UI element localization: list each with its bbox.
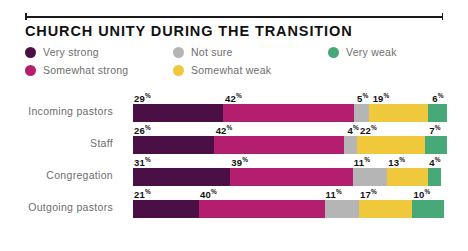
category-label: Staff (0, 137, 113, 149)
chart-row: Congregation31%39%11%13%4% (0, 156, 468, 188)
legend-item[interactable]: Somewhat weak (173, 64, 271, 76)
bar-segment[interactable] (412, 200, 443, 218)
legend-swatch-icon (173, 47, 184, 58)
bar-segment[interactable] (199, 200, 325, 218)
legend-swatch-icon (25, 65, 36, 76)
stacked-bar (133, 136, 447, 154)
percent-sign: % (438, 92, 444, 99)
category-label: Congregation (0, 169, 113, 181)
segment-value-label: 6% (432, 92, 443, 104)
segment-value-label: 42% (216, 124, 233, 136)
value-label-layer: 26%42%4%22%7% (133, 124, 447, 136)
percent-sign: % (384, 92, 390, 99)
legend-item[interactable]: Somewhat strong (25, 64, 128, 76)
percent-sign: % (353, 124, 359, 131)
segment-value-label: 31% (134, 156, 151, 168)
segment-value-number: 19 (373, 93, 384, 104)
chart-row: Incoming pastors29%42%5%19%6% (0, 92, 468, 124)
legend-item-label: Somewhat weak (191, 64, 271, 76)
segment-value-label: 40% (200, 188, 217, 200)
segment-value-label: 13% (388, 156, 405, 168)
legend-item-label: Somewhat strong (43, 64, 128, 76)
segment-value-label: 19% (373, 92, 390, 104)
chart-legend: Very strongSomewhat strongNot sureSomewh… (25, 46, 445, 82)
bar-segment[interactable] (359, 200, 412, 218)
chart-row: Outgoing pastors21%40%11%17%10% (0, 188, 468, 220)
bar-segment[interactable] (133, 104, 223, 122)
bar-segment[interactable] (223, 104, 354, 122)
bar-segment[interactable] (353, 168, 388, 186)
segment-value-label: 10% (413, 188, 430, 200)
segment-value-number: 39 (231, 157, 242, 168)
percent-sign: % (227, 124, 233, 131)
legend-item-label: Very strong (43, 46, 99, 58)
percent-sign: % (145, 124, 151, 131)
percent-sign: % (424, 188, 430, 195)
bar-segment[interactable] (133, 200, 199, 218)
value-label-layer: 29%42%5%19%6% (133, 92, 447, 104)
bar-segment[interactable] (133, 168, 230, 186)
bar-segment[interactable] (133, 136, 214, 154)
segment-value-number: 17 (360, 189, 371, 200)
legend-item[interactable]: Not sure (173, 46, 233, 58)
percent-sign: % (336, 188, 342, 195)
percent-sign: % (371, 188, 377, 195)
bar-segment[interactable] (344, 136, 356, 154)
segment-value-label: 42% (225, 92, 242, 104)
segment-value-label: 22% (360, 124, 377, 136)
percent-sign: % (435, 124, 441, 131)
percent-sign: % (145, 188, 151, 195)
bar-segment[interactable] (325, 200, 360, 218)
segment-value-number: 21 (134, 189, 145, 200)
percent-sign: % (145, 156, 151, 163)
percent-sign: % (399, 156, 405, 163)
segment-value-number: 13 (388, 157, 399, 168)
bar-segment[interactable] (214, 136, 345, 154)
value-label-layer: 21%40%11%17%10% (133, 188, 447, 200)
title-rule (25, 13, 443, 20)
segment-value-number: 22 (360, 125, 371, 136)
bar-segment[interactable] (425, 136, 447, 154)
bar-segment[interactable] (428, 168, 441, 186)
stacked-bar (133, 200, 447, 218)
chart-plot-area: Incoming pastors29%42%5%19%6%Staff26%42%… (0, 92, 468, 242)
segment-value-number: 40 (200, 189, 211, 200)
category-label: Incoming pastors (0, 105, 113, 117)
category-label: Outgoing pastors (0, 201, 113, 213)
legend-item[interactable]: Very weak (328, 46, 397, 58)
bar-segment[interactable] (354, 104, 370, 122)
legend-item-label: Very weak (346, 46, 397, 58)
bar-segment[interactable] (387, 168, 428, 186)
segment-value-number: 26 (134, 125, 145, 136)
segment-value-label: 4% (348, 124, 359, 136)
segment-value-label: 11% (354, 156, 370, 168)
segment-value-number: 11 (354, 157, 364, 168)
bar-segment[interactable] (428, 104, 447, 122)
rule-cap-right (442, 13, 444, 20)
percent-sign: % (371, 124, 377, 131)
segment-value-label: 11% (326, 188, 342, 200)
segment-value-number: 42 (216, 125, 227, 136)
segment-value-number: 29 (134, 93, 145, 104)
legend-item[interactable]: Very strong (25, 46, 99, 58)
stacked-bar (133, 104, 447, 122)
bar-segment[interactable] (230, 168, 352, 186)
percent-sign: % (145, 92, 151, 99)
percent-sign: % (242, 156, 248, 163)
segment-value-label: 26% (134, 124, 151, 136)
percent-sign: % (362, 92, 368, 99)
legend-item-label: Not sure (191, 46, 233, 58)
segment-value-label: 5% (357, 92, 368, 104)
percent-sign: % (435, 156, 441, 163)
legend-swatch-icon (173, 65, 184, 76)
percent-sign: % (364, 156, 370, 163)
value-label-layer: 31%39%11%13%4% (133, 156, 447, 168)
percent-sign: % (236, 92, 242, 99)
segment-value-number: 10 (413, 189, 424, 200)
segment-value-number: 31 (134, 157, 145, 168)
chart-title: CHURCH UNITY DURING THE TRANSITION (25, 23, 353, 39)
bar-segment[interactable] (357, 136, 425, 154)
percent-sign: % (211, 188, 217, 195)
segment-value-label: 39% (231, 156, 248, 168)
bar-segment[interactable] (369, 104, 428, 122)
